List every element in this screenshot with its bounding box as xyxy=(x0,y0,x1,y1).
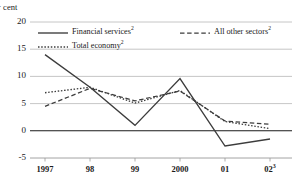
x-axis-tick-label: 98 xyxy=(70,164,110,174)
series-line-all-other-sectors xyxy=(45,88,270,124)
y-axis-tick-label: 20 xyxy=(0,16,26,26)
y-axis-tick-label: 15 xyxy=(0,43,26,53)
x-axis-tick-label: 023 xyxy=(250,164,290,174)
x-axis-tick-label: 1997 xyxy=(25,164,65,174)
chart-container: er cent 20151050-5 19979899200001023 Fin… xyxy=(0,0,299,180)
gridlines-group xyxy=(30,22,292,158)
data-series-group xyxy=(45,55,270,146)
series-line-financial-services xyxy=(45,55,270,146)
x-axis-tick-label: 01 xyxy=(205,164,245,174)
legend-label-financial-services: Financial services2 xyxy=(72,27,134,36)
legend-label-total-economy: Total economy2 xyxy=(72,41,124,50)
x-axis-tick-label: 2000 xyxy=(160,164,200,174)
y-axis-tick-label: 5 xyxy=(0,98,26,108)
y-axis-tick-label: 10 xyxy=(0,70,26,80)
x-axis-tick-marks xyxy=(30,158,292,162)
y-axis-tick-label: -5 xyxy=(0,152,26,162)
x-axis-tick-label: 99 xyxy=(115,164,155,174)
y-axis-tick-label: 0 xyxy=(0,125,26,135)
legend-label-all-other-sectors: All other sectors2 xyxy=(214,27,271,36)
